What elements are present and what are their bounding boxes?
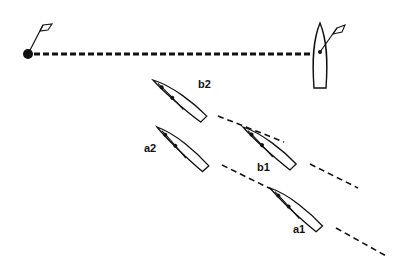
flag-icon [40,24,52,31]
committee-boat [313,23,345,88]
diagram-svg: b2 a2 b1 a1 [0,0,404,265]
label-b1: b1 [257,161,270,173]
wakes [218,116,388,257]
flag-icon [333,25,345,34]
wake-b1 [310,164,358,188]
wake-b2 [218,116,284,142]
sailing-diagram: b2 a2 b1 a1 [0,0,404,265]
label-b2: b2 [198,78,211,90]
wake-a1 [336,228,388,257]
label-a1: a1 [293,223,305,235]
label-a2: a2 [144,142,156,154]
boat-a2 [149,126,214,173]
